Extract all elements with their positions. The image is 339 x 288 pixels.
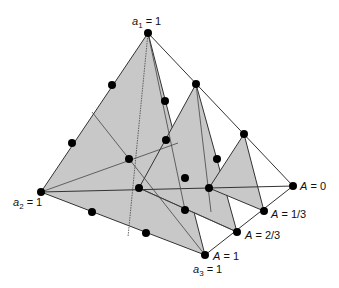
label-A0: A = 0 xyxy=(299,180,326,192)
label-a1: a1 = 1 xyxy=(132,15,161,30)
label-A23: A = 2/3 xyxy=(244,229,280,241)
label-A1: A = 1 xyxy=(212,250,239,262)
label-a2: a2 = 1 xyxy=(13,196,42,211)
simplex-diagram: a1 = 1 a2 = 1 a3 = 1 A = 0 A = 1/3 A = 2… xyxy=(0,0,339,288)
label-a3: a3 = 1 xyxy=(193,263,222,278)
label-A13: A = 1/3 xyxy=(270,208,306,220)
